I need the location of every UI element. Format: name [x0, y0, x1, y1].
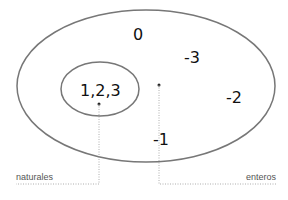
element-0: 0	[133, 25, 143, 44]
enteros-leader-line	[159, 85, 276, 184]
inner-elements: 1,2,3	[80, 81, 121, 100]
venn-diagram: 0 -3 -2 -1 1,2,3 naturales enteros	[0, 0, 288, 200]
element-minus-1: -1	[153, 130, 169, 149]
label-enteros: enteros	[246, 172, 277, 182]
label-naturales: naturales	[16, 172, 54, 182]
element-minus-2: -2	[226, 88, 242, 107]
outer-set-enteros	[17, 10, 275, 162]
element-minus-3: -3	[184, 48, 200, 67]
